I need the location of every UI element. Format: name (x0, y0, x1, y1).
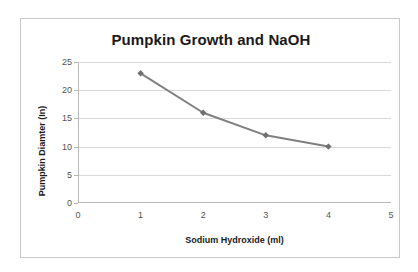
y-axis-tick-label: 20 (62, 85, 72, 95)
y-axis-tick-label: 10 (62, 142, 72, 152)
x-axis-title: Sodium Hydroxide (ml) (78, 235, 391, 245)
x-axis-tick-label: 1 (138, 210, 143, 220)
y-axis-title: Pumpkin Diamter (In) (35, 80, 49, 221)
y-axis-title-label: Pumpkin Diamter (In) (37, 105, 47, 196)
data-series-line (78, 62, 391, 203)
chart-figure: Pumpkin Growth and NaOH Pumpkin Diamter … (0, 0, 418, 272)
data-point-marker (325, 143, 331, 149)
data-point-marker (263, 132, 269, 138)
x-axis-tick-label: 0 (75, 210, 80, 220)
y-axis-tick-label: 0 (67, 198, 72, 208)
plot-area: 0510152025 012345 (78, 62, 391, 203)
x-axis-tick-label: 5 (388, 210, 393, 220)
chart-title: Pumpkin Growth and NaOH (21, 31, 401, 48)
y-axis-tick-label: 5 (67, 170, 72, 180)
chart-border-frame: Pumpkin Growth and NaOH Pumpkin Diamter … (20, 18, 400, 258)
x-axis-tick-label: 4 (326, 210, 331, 220)
x-axis-tick-label: 2 (201, 210, 206, 220)
x-axis-tick-label: 3 (263, 210, 268, 220)
y-axis-tick-label: 15 (62, 113, 72, 123)
y-axis-tick-mark (74, 203, 78, 204)
y-axis-tick-label: 25 (62, 57, 72, 67)
